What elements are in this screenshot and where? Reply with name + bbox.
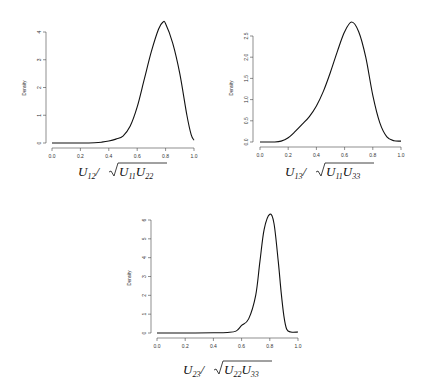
svg-text:U13/: U13/ bbox=[285, 164, 307, 181]
y-tick-label: 4 bbox=[141, 256, 147, 259]
y-tick-label: 1.5 bbox=[243, 75, 249, 82]
x-tick-label: 1.0 bbox=[398, 152, 405, 158]
density-plot-1: 012340.00.20.40.60.81.0DensityU12/U11U22 bbox=[22, 21, 198, 181]
y-tick-label: 2 bbox=[141, 294, 147, 297]
x-tick-label: 1.0 bbox=[191, 153, 198, 159]
x-tick-label: 0.0 bbox=[49, 153, 56, 159]
svg-text:U12/: U12/ bbox=[78, 164, 100, 181]
y-tick-label: 1 bbox=[36, 114, 42, 117]
x-tick-label: 0.6 bbox=[341, 152, 348, 158]
y-tick-label: 1.0 bbox=[243, 96, 249, 103]
y-tick-label: 4 bbox=[36, 30, 42, 33]
y-tick-label: 6 bbox=[141, 218, 147, 221]
y-tick-label: 1 bbox=[141, 313, 147, 316]
y-tick-label: 2.5 bbox=[243, 32, 249, 39]
x-tick-label: 0.8 bbox=[369, 152, 376, 158]
y-tick-label: 2.0 bbox=[243, 54, 249, 61]
x-tick-label: 0.6 bbox=[134, 153, 141, 159]
svg-text:U22U33: U22U33 bbox=[224, 362, 259, 379]
y-tick-label: 3 bbox=[141, 275, 147, 278]
x-tick-label: 0.2 bbox=[182, 343, 189, 349]
density-curve bbox=[52, 21, 194, 143]
y-tick-label: 5 bbox=[141, 237, 147, 240]
density-plots-figure: 012340.00.20.40.60.81.0DensityU12/U11U22… bbox=[0, 0, 423, 388]
y-axis-label: Density bbox=[229, 80, 234, 96]
x-tick-label: 0.8 bbox=[266, 343, 273, 349]
x-tick-label: 0.0 bbox=[257, 152, 264, 158]
x-tick-label: 0.4 bbox=[210, 343, 217, 349]
svg-text:U23/: U23/ bbox=[183, 362, 205, 379]
y-tick-label: 3 bbox=[36, 58, 42, 61]
x-axis-label: U13/U11U33 bbox=[285, 163, 374, 181]
y-tick-label: 0 bbox=[36, 141, 42, 144]
x-tick-label: 0.6 bbox=[238, 343, 245, 349]
density-plot-2: 0.00.51.01.52.02.50.00.20.40.60.81.0Dens… bbox=[229, 22, 405, 181]
y-tick-label: 0.0 bbox=[243, 138, 249, 145]
x-tick-label: 0.8 bbox=[162, 153, 169, 159]
y-tick-label: 0.5 bbox=[243, 117, 249, 124]
density-curve bbox=[157, 214, 298, 333]
density-plot-3: 01234560.00.20.40.60.81.0DensityU23/U22U… bbox=[127, 214, 302, 379]
x-tick-label: 0.4 bbox=[313, 152, 320, 158]
svg-text:U11U22: U11U22 bbox=[119, 164, 153, 181]
density-curve bbox=[260, 22, 401, 142]
y-axis-label: Density bbox=[127, 270, 132, 286]
x-tick-label: 0.2 bbox=[285, 152, 292, 158]
x-tick-label: 0.0 bbox=[154, 343, 161, 349]
y-axis-label: Density bbox=[22, 80, 27, 96]
x-axis-label: U12/U11U22 bbox=[78, 163, 167, 181]
x-axis-label: U23/U22U33 bbox=[183, 361, 272, 379]
x-tick-label: 0.2 bbox=[77, 153, 84, 159]
svg-text:U11U33: U11U33 bbox=[326, 164, 360, 181]
y-tick-label: 2 bbox=[36, 86, 42, 89]
x-tick-label: 1.0 bbox=[295, 343, 302, 349]
y-tick-label: 0 bbox=[141, 331, 147, 334]
x-tick-label: 0.4 bbox=[105, 153, 112, 159]
